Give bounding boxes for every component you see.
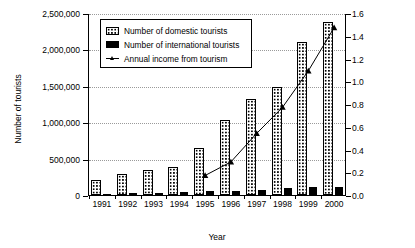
international-swatch-icon: [106, 41, 119, 48]
x-tick-mark: [218, 195, 219, 199]
y-tick-label-right: 1.0: [352, 77, 382, 87]
y-tick-label-left: 1,500,000: [18, 82, 80, 92]
income-marker: [202, 172, 208, 178]
y-tick-label-left: 2,500,000: [18, 9, 80, 19]
x-axis-label: Year: [88, 232, 346, 242]
y-tick-mark-right: [346, 196, 351, 197]
domestic-swatch-icon: [106, 27, 119, 35]
y-tick-label-right: 0.6: [352, 123, 382, 133]
y-tick-label-right: 1.6: [352, 9, 382, 19]
legend-label-international: Number of international tourists: [124, 40, 239, 50]
income-marker: [331, 24, 337, 30]
x-tick-mark: [166, 195, 167, 199]
legend-item-international: Number of international tourists: [106, 38, 246, 51]
x-tick-mark: [270, 195, 271, 199]
y-tick-label-right: 0.0: [352, 191, 382, 201]
y-tick-label-left: 0: [18, 191, 80, 201]
y-tick-label-right: 0.4: [352, 146, 382, 156]
legend-item-domestic: Number of domestic tourists: [106, 24, 246, 37]
chart-legend: Number of domestic tourists Number of in…: [100, 19, 252, 68]
y-tick-label-right: 0.8: [352, 100, 382, 110]
x-tick-mark: [321, 195, 322, 199]
tourism-chart: Number of tourists Annual income from to…: [0, 0, 415, 248]
legend-label-income: Annual income from tourism: [124, 54, 227, 64]
x-tick-mark: [115, 195, 116, 199]
x-tick-mark: [244, 195, 245, 199]
y-tick-label-left: 1,000,000: [18, 118, 80, 128]
legend-item-income: Annual income from tourism: [106, 52, 246, 65]
income-line-swatch-icon: [106, 55, 119, 63]
legend-label-domestic: Number of domestic tourists: [124, 26, 227, 36]
y-tick-mark-left: [83, 196, 88, 197]
y-tick-label-right: 1.2: [352, 55, 382, 65]
y-tick-label-left: 500,000: [18, 155, 80, 165]
income-marker: [305, 68, 311, 74]
x-tick-mark: [141, 195, 142, 199]
x-tick-mark: [192, 195, 193, 199]
y-tick-label-right: 0.2: [352, 168, 382, 178]
x-tick-mark: [89, 195, 90, 199]
x-tick-mark: [295, 195, 296, 199]
y-tick-label-left: 2,000,000: [18, 45, 80, 55]
y-tick-label-right: 1.4: [352, 32, 382, 42]
x-tick-label: 2000: [317, 199, 351, 209]
